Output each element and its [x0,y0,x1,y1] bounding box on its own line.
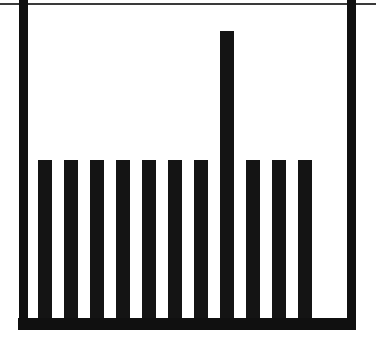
left-axis-spine-bar [19,0,28,330]
top-frame-line [0,3,376,5]
bar-8 [220,31,234,330]
bar-5 [142,160,156,330]
bar-7 [194,160,208,330]
bar-4 [116,160,130,330]
bar-2 [64,160,78,330]
bar-chart-plot [0,0,376,351]
bar-3 [90,160,104,330]
bar-9 [246,160,260,330]
bar-11 [298,160,312,330]
chart-screenshot [0,0,376,351]
bar-10 [272,160,286,330]
bar-6 [168,160,182,330]
right-axis-spine-bar [347,0,356,330]
bar-1 [38,160,52,330]
x-axis-baseline [18,318,356,330]
